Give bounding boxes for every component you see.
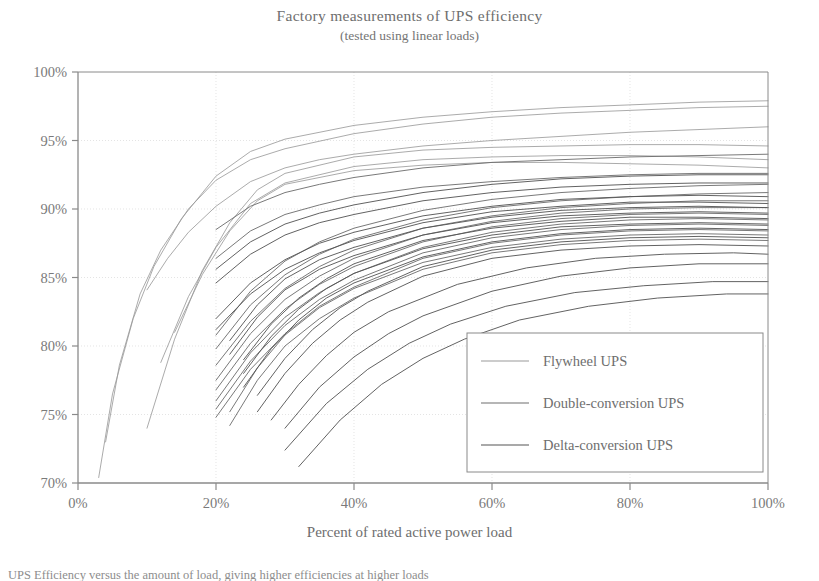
svg-text:Double-conversion UPS: Double-conversion UPS bbox=[543, 395, 684, 411]
svg-text:0%: 0% bbox=[68, 495, 87, 511]
svg-text:20%: 20% bbox=[203, 495, 230, 511]
svg-text:85%: 85% bbox=[40, 270, 67, 286]
svg-text:40%: 40% bbox=[341, 495, 368, 511]
figure-caption: UPS Efficiency versus the amount of load… bbox=[8, 568, 811, 581]
svg-text:95%: 95% bbox=[40, 133, 67, 149]
svg-text:75%: 75% bbox=[40, 407, 67, 423]
svg-text:80%: 80% bbox=[617, 495, 644, 511]
svg-text:90%: 90% bbox=[40, 201, 67, 217]
chart-figure: Factory measurements of UPS efficiency (… bbox=[0, 0, 819, 581]
svg-text:Delta-conversion UPS: Delta-conversion UPS bbox=[543, 437, 673, 453]
svg-text:60%: 60% bbox=[479, 495, 506, 511]
svg-text:100%: 100% bbox=[33, 64, 67, 80]
svg-text:100%: 100% bbox=[751, 495, 785, 511]
svg-text:Flywheel UPS: Flywheel UPS bbox=[543, 353, 627, 369]
chart-plot-area: 70%75%80%85%90%95%100%0%20%40%60%80%100%… bbox=[0, 0, 819, 581]
svg-text:80%: 80% bbox=[40, 338, 67, 354]
chart-legend[interactable]: Flywheel UPSDouble-conversion UPSDelta-c… bbox=[467, 333, 763, 472]
svg-text:70%: 70% bbox=[40, 475, 67, 491]
